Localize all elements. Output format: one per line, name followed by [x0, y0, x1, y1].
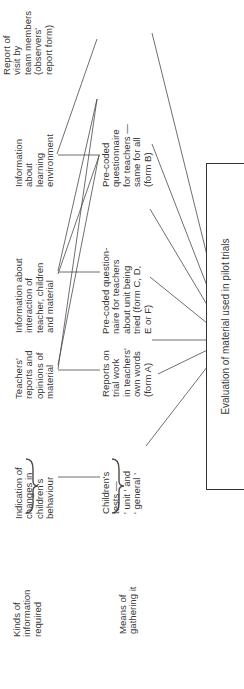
means-precoded-form-b: Pre-coded questionnaire for teachers — s… [101, 124, 153, 187]
means-observers-report: Report of visit by team members (observe… [2, 11, 54, 75]
means-childrens-tests: Children's tests — ' unit ' and ' genera… [101, 471, 143, 514]
means-reports-form-a: Reports on trial work in teachers' own w… [101, 348, 153, 397]
evaluation-diagram: Kinds of information required Means of g… [0, 0, 244, 689]
row-label-means: Means of gathering it [118, 587, 139, 634]
info-learning-environment: Information about learning environment [14, 134, 56, 187]
info-children-behaviour: Indication of changes in children's beha… [14, 467, 56, 519]
info-interaction: Information about interaction of teacher… [14, 258, 56, 333]
row-label-kinds: Kinds of information required [12, 590, 43, 637]
means-precoded-unit-forms: Pre-coded question- naire for teachers a… [101, 248, 153, 334]
evaluation-box: Evaluation of material used in pilot tri… [206, 163, 244, 490]
evaluation-box-label: Evaluation of material used in pilot tri… [221, 238, 231, 414]
info-teachers-reports: Teachers' reports and opinions of materi… [14, 350, 56, 399]
